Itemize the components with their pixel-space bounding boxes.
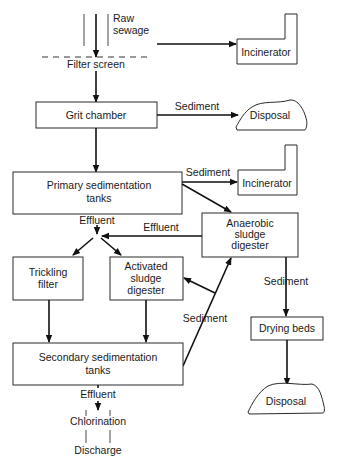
grit-sediment-label: Sediment bbox=[175, 100, 219, 112]
raw-line2: sewage bbox=[113, 24, 149, 36]
sewage-flow-diagram: Rawsewage Filter screen Incinerator Grit… bbox=[0, 0, 337, 466]
incinerator-2-label: Incinerator bbox=[242, 177, 292, 189]
chlorination-label: Chlorination bbox=[70, 415, 126, 427]
primary-line1: Primary sedimentation bbox=[47, 179, 152, 191]
trickling-line1: Trickling bbox=[29, 266, 68, 278]
anaerobic-sediment-label: Sediment bbox=[264, 275, 308, 287]
secondary-line2: tanks bbox=[85, 364, 110, 376]
primary-sedimentation-node: Primary sedimentationtanks bbox=[13, 172, 182, 214]
raw-line1: Raw bbox=[113, 12, 134, 24]
incinerator-2-node: Incinerator bbox=[238, 145, 297, 195]
activated-sludge-label: Activatedsludgedigester bbox=[124, 260, 167, 296]
primary-sediment-label: Sediment bbox=[186, 166, 230, 178]
trickling-line2: filter bbox=[38, 278, 58, 290]
disposal-2-node: Disposal bbox=[248, 383, 324, 414]
secondary-sediment-label: Sediment bbox=[183, 312, 227, 324]
arrow-junction-to-trickling bbox=[73, 238, 93, 255]
secondary-effluent-label: Effluent bbox=[80, 388, 115, 400]
anaerobic-digester-node: Anaerobicsludgedigester bbox=[202, 213, 298, 257]
grit-chamber-node: Grit chamber bbox=[36, 102, 157, 128]
trickling-filter-node: Tricklingfilter bbox=[13, 257, 83, 300]
drying-beds-label: Drying beds bbox=[259, 322, 315, 334]
arrow-junction-to-activated bbox=[101, 238, 121, 255]
activated-line3: digester bbox=[127, 284, 165, 296]
disposal-1-node: Disposal bbox=[236, 100, 307, 130]
activated-line2: sludge bbox=[131, 272, 162, 284]
anaerobic-line3: digester bbox=[231, 239, 269, 251]
activated-sludge-node: Activatedsludgedigester bbox=[110, 257, 183, 300]
disposal-1-label: Disposal bbox=[250, 109, 290, 121]
incinerator-1-label: Incinerator bbox=[241, 46, 291, 58]
incinerator-1-node: Incinerator bbox=[237, 14, 297, 64]
arrow-sediment-to-activated bbox=[184, 278, 215, 293]
filter-screen-label: Filter screen bbox=[67, 58, 125, 70]
grit-chamber-label: Grit chamber bbox=[66, 109, 127, 121]
arrow-primary-to-anaerobic bbox=[182, 184, 231, 212]
primary-line2: tanks bbox=[86, 192, 111, 204]
disposal-2-label: Disposal bbox=[266, 395, 306, 407]
raw-sewage-channel bbox=[84, 14, 108, 57]
secondary-line1: Secondary sedimentation bbox=[39, 351, 158, 363]
secondary-sedimentation-node: Secondary sedimentationtanks bbox=[13, 343, 183, 385]
drying-beds-node: Drying beds bbox=[251, 317, 323, 340]
primary-effluent-label: Effluent bbox=[79, 214, 114, 226]
raw-sewage-label: Rawsewage bbox=[113, 12, 149, 36]
discharge-label: Discharge bbox=[74, 444, 121, 456]
anaerobic-effluent-label: Effluent bbox=[143, 221, 178, 233]
activated-line1: Activated bbox=[124, 260, 167, 272]
